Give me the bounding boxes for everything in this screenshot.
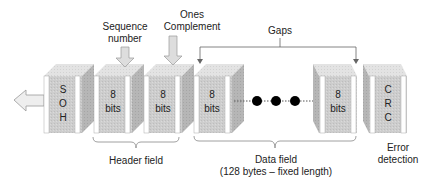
down-arrow-icon: [164, 36, 182, 65]
crc-label-c2: C: [384, 112, 391, 123]
error-detection-label-2: detection: [378, 154, 419, 165]
gaps-callout: Gaps: [197, 25, 359, 64]
ellipsis-dots-icon: [234, 96, 317, 106]
data-last-bits-unit: bits: [330, 103, 346, 114]
data-field-brace: Data field (128 bytes – fixed length): [194, 136, 356, 177]
header-field-brace: Header field: [93, 137, 179, 166]
ones-complement-label: Ones: [180, 9, 204, 20]
soh-label-h: H: [59, 112, 66, 123]
error-detection-label: Error: [387, 142, 410, 153]
ones-complement-callout: Ones Complement: [164, 9, 221, 65]
gap-arrow-icon: [197, 59, 203, 64]
error-detection-callout: Error detection: [378, 142, 419, 165]
xmodem-frame-diagram: S O H 8 bits 8 bits 8 bits: [0, 0, 433, 190]
data-field-sublabel: (128 bytes – fixed length): [220, 166, 332, 177]
sequence-number-label-2: number: [108, 33, 143, 44]
data-block-first: 8 bits: [194, 64, 244, 133]
seq-bits-value: 8: [110, 89, 116, 100]
crc-label-r: R: [384, 98, 391, 109]
soh-label-o: O: [59, 98, 67, 109]
header-field-label: Header field: [109, 155, 163, 166]
data-block-last: 8 bits: [313, 64, 357, 133]
ones-complement-label-2: Complement: [164, 21, 221, 32]
crc-block: C R C: [363, 64, 407, 133]
soh-label-s: S: [60, 84, 67, 95]
data-first-bits-unit: bits: [204, 103, 220, 114]
sequence-number-callout: Sequence number: [102, 21, 147, 67]
ones-bits-unit: bits: [155, 103, 171, 114]
gap-arrow-icon: [353, 59, 359, 64]
data-last-bits-value: 8: [335, 89, 341, 100]
data-first-bits-value: 8: [209, 89, 215, 100]
gaps-label: Gaps: [268, 25, 292, 36]
data-field-label: Data field: [255, 154, 297, 165]
seq-bits-unit: bits: [105, 103, 121, 114]
sequence-number-block: 8 bits: [94, 64, 144, 133]
ones-bits-value: 8: [160, 89, 166, 100]
output-arrow-icon: [14, 90, 44, 111]
ones-complement-block: 8 bits: [144, 64, 194, 133]
sequence-number-label: Sequence: [102, 21, 147, 32]
soh-block: S O H: [44, 64, 94, 133]
crc-label-c1: C: [384, 84, 391, 95]
